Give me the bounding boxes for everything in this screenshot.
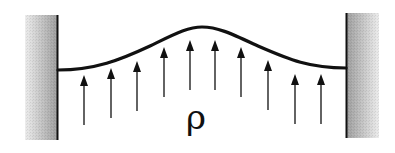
up-arrow-icon (107, 68, 115, 118)
up-arrow-icon (317, 74, 325, 124)
up-arrow-icon (211, 40, 219, 90)
up-arrow-icon (264, 60, 272, 110)
up-arrow-icon (160, 47, 168, 97)
left-wall (25, 15, 58, 140)
membrane-curve (58, 27, 346, 70)
up-arrow-icon (237, 47, 245, 97)
up-arrow-icon (133, 61, 141, 111)
right-wall (346, 13, 379, 138)
up-arrow-icon (291, 74, 299, 124)
up-arrow-icon (186, 40, 194, 90)
up-arrow-icon (80, 75, 88, 125)
density-label: ρ (186, 100, 206, 134)
